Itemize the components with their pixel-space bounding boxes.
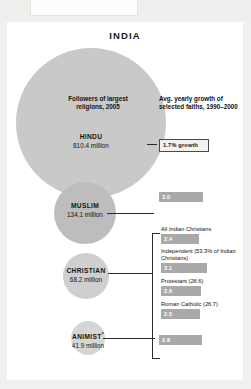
- chart-card: INDIA Followers of largest religions, 20…: [7, 22, 243, 380]
- growth-bar-animist-value: 2.8: [162, 337, 170, 343]
- column-header-growth: Avg. yearly growth of selected faiths, 1…: [159, 95, 247, 111]
- circle-label-muslim: MUSLIM 134.1 million: [54, 202, 116, 219]
- column-header-followers: Followers of largest religions, 2005: [63, 95, 133, 111]
- growth-bar-hindu: 1.7% growth: [159, 139, 209, 152]
- circle-hindu: [16, 48, 166, 198]
- page-remnant-strip: …ever, the most-cited answer was that th…: [0, 0, 251, 22]
- circle-value-animist: 41.9 million: [55, 342, 121, 351]
- leader-line-muslim: [107, 213, 154, 214]
- growth-bar-label-protestant: Protestant (28.6): [161, 278, 245, 285]
- growth-bar-protestant-value: 2.6: [164, 288, 172, 294]
- circle-label-christian: CHRISTIAN 68.2 million: [47, 267, 125, 284]
- circle-value-christian: 68.2 million: [47, 276, 125, 285]
- growth-bar-muslim-value: 3.0: [162, 194, 170, 200]
- remnant-card: [30, 0, 138, 16]
- growth-bar-all-christians-value: 2.4: [164, 236, 172, 242]
- growth-bar-roman-catholic-value: 2.5: [164, 311, 172, 317]
- growth-bar-label-independent: Independent (53.3% of Indian Christians): [161, 248, 245, 262]
- growth-bar-animist: 2.8: [159, 335, 202, 345]
- circle-name-animist-text: ANIMIST: [72, 333, 102, 340]
- growth-bar-label-roman-catholic: Roman Catholic (26.7): [161, 301, 245, 308]
- circle-name-christian: CHRISTIAN: [47, 267, 125, 276]
- circle-label-animist: ANIMIST* 41.9 million: [55, 330, 121, 350]
- circle-name-hindu: HINDU: [16, 133, 166, 142]
- circle-value-muslim: 134.1 million: [54, 211, 116, 220]
- growth-bar-label-all-christians: All Indian Christians: [161, 226, 245, 233]
- circle-value-hindu: 810.4 million: [16, 142, 166, 151]
- growth-bar-all-christians: 2.4: [161, 234, 199, 244]
- growth-bar-hindu-value: 1.7% growth: [163, 142, 198, 148]
- page-title: INDIA: [7, 30, 243, 41]
- growth-bar-muslim: 3.0: [159, 192, 203, 202]
- leader-line-hindu: [147, 144, 157, 145]
- growth-bar-independent: 3.1: [161, 263, 207, 273]
- growth-bar-independent-value: 3.1: [164, 265, 172, 271]
- leader-line-christian: [108, 273, 153, 274]
- circle-name-animist: ANIMIST*: [55, 330, 121, 342]
- circle-name-muslim: MUSLIM: [54, 202, 116, 211]
- circle-label-hindu: HINDU 810.4 million: [16, 133, 166, 150]
- growth-bar-roman-catholic: 2.5: [161, 309, 200, 319]
- footnote-marker: *: [102, 331, 104, 337]
- infographic-page: …ever, the most-cited answer was that th…: [0, 0, 251, 389]
- growth-bar-protestant: 2.6: [161, 286, 201, 296]
- leader-line-animist: [103, 338, 155, 339]
